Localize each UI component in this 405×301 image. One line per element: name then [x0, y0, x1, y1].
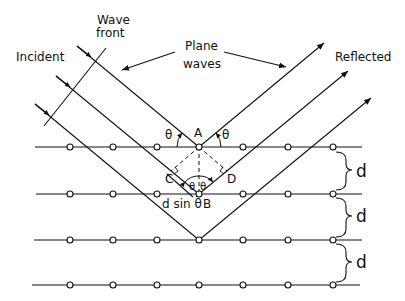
- atom: [154, 191, 160, 197]
- atom: [285, 191, 291, 197]
- point-c-label: C: [165, 172, 173, 186]
- construction-lines: [171, 147, 227, 194]
- atom: [285, 282, 291, 288]
- atom: [67, 282, 73, 288]
- plane-label-line1: Plane: [185, 39, 218, 53]
- theta-right: θ: [222, 128, 229, 142]
- atom: [67, 144, 73, 150]
- incident-ray-2: [56, 76, 199, 194]
- atom: [154, 282, 160, 288]
- spacing-label-1: d: [356, 161, 367, 181]
- atom: [110, 191, 116, 197]
- atom: [240, 282, 246, 288]
- spacing-braces: [336, 152, 352, 282]
- theta-inner-right: θ: [200, 181, 206, 192]
- theta-left: θ: [165, 128, 172, 142]
- atom: [285, 237, 291, 243]
- point-d-label: D: [227, 172, 236, 186]
- atom: [285, 144, 291, 150]
- brace-3: [336, 244, 352, 282]
- point-b-label: B: [203, 197, 211, 211]
- atom: [110, 144, 116, 150]
- atom: [110, 282, 116, 288]
- theta-inner-left: θ: [189, 181, 195, 192]
- atom: [196, 237, 202, 243]
- atom: [67, 237, 73, 243]
- bragg-diagram: Wave front Incident Plane waves Reflecte…: [0, 0, 405, 301]
- brace-2: [336, 198, 352, 237]
- crystal-planes: [32, 147, 362, 285]
- front-label-line2: front: [96, 26, 125, 40]
- plane-waves-arrow-right: [224, 52, 286, 67]
- spacing-label-3: d: [356, 252, 367, 272]
- atom: [330, 237, 336, 243]
- brace-1: [336, 152, 352, 190]
- atom: [154, 237, 160, 243]
- atom: [196, 282, 202, 288]
- incident-label: Incident: [16, 50, 65, 64]
- reflected-ray-3: [199, 98, 371, 240]
- point-a-label: A: [194, 126, 203, 140]
- atom: [240, 191, 246, 197]
- plane-waves-arrow-left: [122, 52, 175, 70]
- path-diff-label: d sin θ: [162, 197, 202, 211]
- reflected-label: Reflected: [335, 50, 391, 64]
- atoms: [67, 144, 336, 288]
- atom: [67, 191, 73, 197]
- diagram-svg: Wave front Incident Plane waves Reflecte…: [0, 0, 405, 301]
- atom: [240, 144, 246, 150]
- waves-label-line2: waves: [183, 57, 221, 71]
- atom: [330, 282, 336, 288]
- atom: [330, 191, 336, 197]
- atom: [196, 144, 202, 150]
- incident-ray-3: [35, 104, 199, 240]
- atom: [330, 144, 336, 150]
- wave-label-line1: Wave: [97, 13, 130, 27]
- atom: [154, 144, 160, 150]
- atom: [110, 237, 116, 243]
- spacing-label-2: d: [356, 206, 367, 226]
- atom: [240, 237, 246, 243]
